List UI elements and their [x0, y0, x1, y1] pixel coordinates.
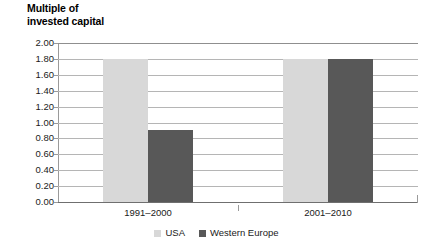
bar-western-europe-2001–2010	[328, 59, 373, 202]
y-axis-tick-label: 1.60	[20, 70, 54, 80]
legend-label: Western Europe	[210, 228, 278, 238]
bar-usa-1991–2000	[103, 59, 148, 202]
x-axis-categories: 1991–20002001–2010	[58, 205, 418, 221]
y-axis-labels: 2.001.801.601.401.201.000.800.600.400.20…	[16, 43, 54, 203]
y-axis-tick-label: 0.60	[20, 149, 54, 159]
y-axis-tick-label: 0.20	[20, 181, 54, 191]
y-axis-tick-label: 1.40	[20, 86, 54, 96]
y-axis-tick-label: 1.20	[20, 102, 54, 112]
y-axis-tick-label: 1.00	[20, 118, 54, 128]
y-axis-tick-label: 2.00	[20, 38, 54, 48]
y-axis-tick-label: 0.00	[20, 197, 54, 207]
category-label: 2001–2010	[238, 207, 418, 218]
chart-title: Multiple of invested capital	[27, 2, 104, 27]
legend-swatch-icon	[154, 230, 161, 237]
y-axis-tick-label: 0.80	[20, 133, 54, 143]
bar-usa-2001–2010	[283, 59, 328, 202]
category-label: 1991–2000	[58, 207, 238, 218]
legend-item: USA	[154, 228, 185, 238]
bar-chart: Multiple of invested capital 2.001.801.6…	[0, 0, 433, 249]
bars-layer	[58, 43, 418, 203]
y-axis-tick-label: 0.40	[20, 165, 54, 175]
chart-legend: USAWestern Europe	[0, 228, 433, 238]
legend-swatch-icon	[199, 230, 206, 237]
legend-item: Western Europe	[199, 228, 278, 238]
y-axis-tick-label: 1.80	[20, 54, 54, 64]
bar-western-europe-1991–2000	[148, 130, 193, 202]
legend-label: USA	[165, 228, 185, 238]
